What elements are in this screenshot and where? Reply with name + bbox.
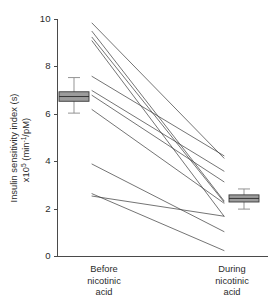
subject-10-line bbox=[92, 194, 224, 251]
subject-line-group bbox=[92, 23, 224, 251]
subject-6-line bbox=[92, 91, 224, 172]
y-tick-label-10: 10 bbox=[40, 13, 51, 24]
x-category-during-line3: acid bbox=[223, 287, 240, 297]
y-axis-label-mid: (min bbox=[20, 142, 31, 163]
y-axis-label-suffix: /pM) bbox=[20, 118, 31, 137]
y-tick-label-4: 4 bbox=[45, 155, 51, 166]
y-axis-label: Insulin sensitivity index (s) x105 (min-… bbox=[8, 94, 31, 203]
summary-box-group bbox=[59, 78, 259, 210]
x-category-during-line2: nicotinic bbox=[215, 276, 249, 286]
x-category-before-line2: nicotinic bbox=[87, 276, 121, 286]
x-category-before-line3: acid bbox=[95, 287, 112, 297]
subject-4-line bbox=[92, 41, 224, 216]
chart-figure: 0246810 Insulin sensitivity index (s) x1… bbox=[0, 0, 276, 302]
y-axis-group: 0246810 bbox=[40, 13, 58, 261]
y-axis-label-line1: Insulin sensitivity index (s) bbox=[8, 94, 19, 203]
y-tick-label-2: 2 bbox=[45, 203, 50, 214]
during-summary-box bbox=[229, 189, 259, 209]
subject-9-line bbox=[92, 164, 224, 232]
y-tick-label-6: 6 bbox=[45, 108, 50, 119]
y-axis-label-line2: x105 (min-1/pM) bbox=[20, 118, 32, 182]
subject-8-line bbox=[92, 110, 224, 204]
y-tick-group: 0246810 bbox=[40, 13, 58, 261]
y-tick-label-8: 8 bbox=[45, 60, 50, 71]
subject-11-line bbox=[92, 196, 224, 216]
x-category-label-group: BeforenicotinicacidDuringnicotinicacid bbox=[87, 264, 249, 297]
subject-7-line bbox=[92, 95, 224, 182]
subject-1-line bbox=[92, 23, 224, 158]
subject-5-line bbox=[92, 76, 224, 155]
before-summary-box bbox=[59, 78, 89, 114]
x-category-before-line1: Before bbox=[90, 264, 117, 274]
y-axis-label-x10: x10 bbox=[20, 167, 31, 182]
x-category-during-line1: During bbox=[218, 264, 245, 274]
insulin-sensitivity-plot: 0246810 Insulin sensitivity index (s) x1… bbox=[0, 0, 276, 302]
y-tick-label-0: 0 bbox=[45, 250, 50, 261]
subject-3-line bbox=[92, 37, 224, 202]
